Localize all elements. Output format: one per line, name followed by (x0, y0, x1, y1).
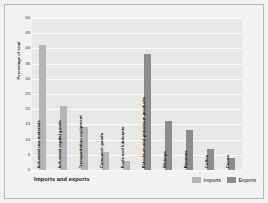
chart-figure: Percentage of total 50454035302520151050… (0, 0, 268, 203)
bar-category-label: Coffee (205, 155, 209, 168)
y-axis-tick-label: 45 (25, 31, 30, 35)
bar-category-label: Petroleum and petroleum products (142, 97, 146, 168)
bar-category-label: Cocoa (226, 155, 230, 168)
y-axis-tick-label: 5 (28, 153, 30, 157)
legend-label: Imports (204, 177, 221, 183)
gridline (32, 170, 242, 171)
bar-category-label: Shrimps (163, 151, 167, 168)
bar-category-label: Transportation equipment (79, 115, 83, 168)
x-axis-title: Imports and exports (34, 176, 90, 182)
bar-series: Industrial raw materialsIndustrial capit… (32, 18, 242, 170)
legend-item: Exports (227, 177, 256, 183)
legend-swatch (192, 177, 201, 183)
y-axis-title: Percentage of total (16, 13, 21, 109)
y-axis-tick-label: 0 (28, 168, 30, 172)
y-axis-tick-label: 30 (25, 77, 30, 81)
bar-category-label: Fuels and lubricants (121, 126, 125, 168)
y-axis-tick-label: 15 (25, 122, 30, 126)
legend-item: Imports (192, 177, 221, 183)
bar-category-label: Bananas (184, 150, 188, 168)
bar-category-label: Industrial raw materials (37, 120, 41, 168)
bar-category-label: Industrial capital goods (58, 120, 62, 168)
y-axis-tick-label: 50 (25, 16, 30, 20)
chart-legend: ImportsExports (192, 177, 256, 183)
bar-category-label: Consumer goods (100, 133, 104, 168)
y-axis-tick-label: 35 (25, 61, 30, 65)
y-axis-tick-label: 25 (25, 92, 30, 96)
y-axis-tick-label: 20 (25, 107, 30, 111)
legend-swatch (227, 177, 236, 183)
y-axis-tick-label: 10 (25, 137, 30, 141)
legend-label: Exports (238, 177, 256, 183)
y-axis-tick-label: 40 (25, 46, 30, 50)
plot-area: 50454035302520151050 Industrial raw mate… (32, 18, 242, 170)
